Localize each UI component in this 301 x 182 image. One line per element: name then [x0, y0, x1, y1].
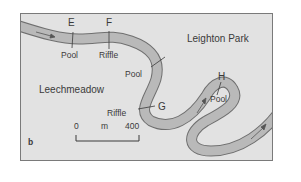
scale-bar-line [21, 14, 273, 161]
map-panel: E F G H Pool Riffle Pool Riffle Pool Lei… [20, 13, 273, 161]
panel-label: b [28, 138, 33, 147]
